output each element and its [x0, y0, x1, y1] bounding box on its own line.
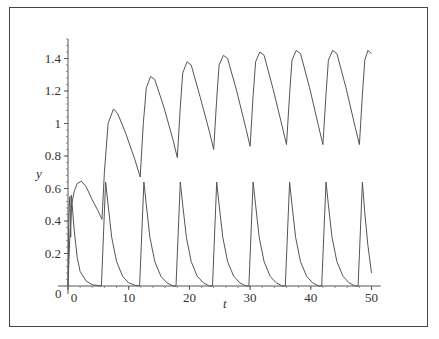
y-tick-label: 1.2: [45, 83, 61, 98]
x-tick-label: 30: [244, 290, 257, 305]
origin-label: 0: [55, 286, 62, 301]
axes: 0.20.40.60.811.21.401020304050: [45, 39, 381, 305]
x-tick-label: 10: [122, 290, 135, 305]
y-tick-label: 0.4: [45, 213, 62, 228]
x-tick-label: 40: [304, 290, 317, 305]
y-tick-label: 1: [55, 116, 62, 131]
y-tick-label: 0.2: [45, 246, 61, 261]
lower-curve-line: [68, 182, 372, 286]
y-tick-label: 1.4: [45, 51, 62, 66]
y-axis-label: y: [34, 166, 42, 181]
y-tick-label: 0.8: [45, 148, 61, 163]
x-tick-label: 20: [183, 290, 196, 305]
series-group: [68, 50, 372, 286]
x-tick-label: 50: [365, 290, 378, 305]
x-axis-label: t: [223, 296, 227, 311]
y-tick-label: 0.6: [45, 181, 62, 196]
upper-curve-line: [68, 50, 372, 286]
x-tick-label: 0: [71, 290, 78, 305]
chart-svg: 0.20.40.60.811.21.401020304050 y t 0: [0, 0, 439, 339]
